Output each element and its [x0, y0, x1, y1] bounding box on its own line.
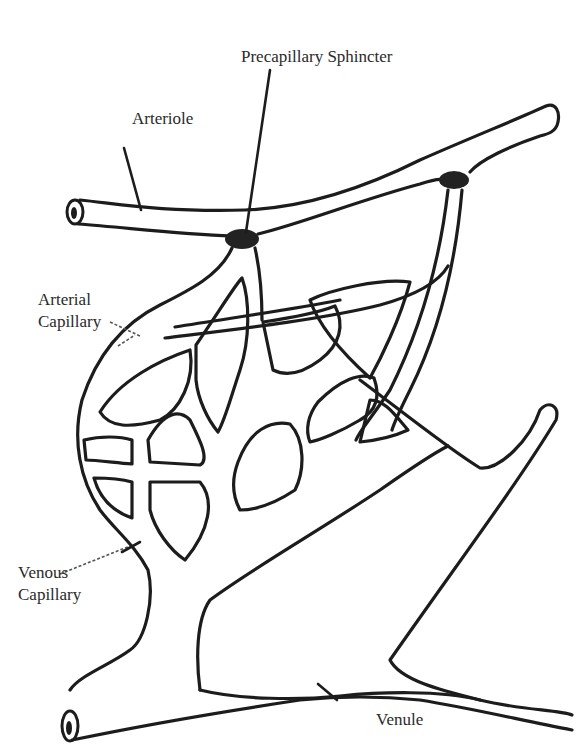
- label-precapillary-sphincter: Precapillary Sphincter: [241, 46, 393, 68]
- label-arteriole: Arteriole: [132, 108, 193, 130]
- label-venous-capillary-line1: Venous: [18, 562, 81, 584]
- capillary-network: [62, 190, 572, 741]
- label-venous-capillary-line2: Capillary: [18, 584, 81, 606]
- diagram-drawing: [0, 0, 586, 749]
- precapillary-sphincter-right: [439, 171, 469, 189]
- label-arterial-capillary-line2: Capillary: [38, 311, 101, 333]
- label-venule: Venule: [376, 709, 423, 731]
- label-venous-capillary: Venous Capillary: [18, 562, 81, 606]
- pointer-arteriole: [124, 148, 141, 210]
- precapillary-sphincter-left: [225, 229, 259, 249]
- label-arterial-capillary-line1: Arterial: [38, 289, 101, 311]
- label-arterial-capillary: Arterial Capillary: [38, 289, 101, 333]
- capillary-bed-diagram: Precapillary Sphincter Arteriole Arteria…: [0, 0, 586, 749]
